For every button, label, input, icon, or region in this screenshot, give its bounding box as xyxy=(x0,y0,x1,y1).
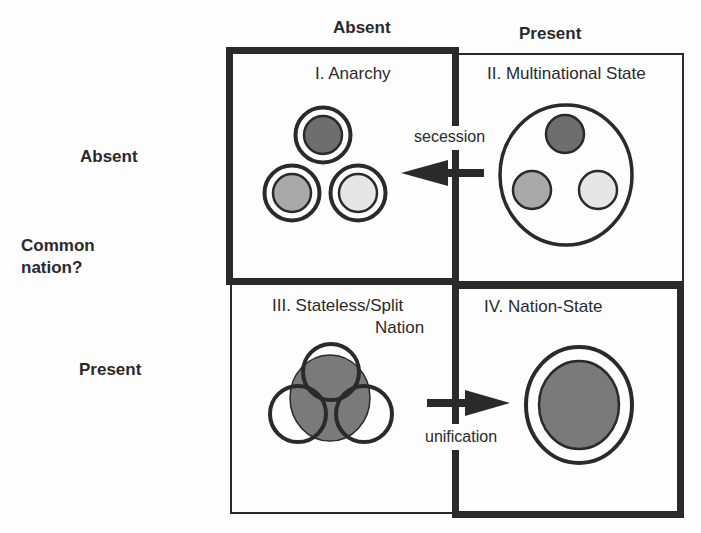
multinational-state-icon xyxy=(500,105,632,245)
quadrant-iii-title-line2: Nation xyxy=(375,318,424,338)
row-axis-title-line2: nation? xyxy=(21,258,82,278)
nation-state-icon xyxy=(526,347,632,463)
quadrant-i-title: I. Anarchy xyxy=(315,64,391,84)
secession-arrow-icon xyxy=(401,160,484,186)
row-header-present: Present xyxy=(79,360,141,380)
quadrant-iii-title-line1: III. Stateless/Split xyxy=(272,296,403,316)
row-header-absent: Absent xyxy=(80,147,138,167)
row-axis-title-line1: Common xyxy=(21,236,95,256)
secession-label: secession xyxy=(414,128,485,146)
anarchy-icon xyxy=(265,108,386,221)
column-header-absent: Absent xyxy=(333,18,391,38)
quadrant-iv-title: IV. Nation-State xyxy=(484,297,602,317)
quadrant-i-box xyxy=(230,51,456,282)
quadrant-ii-title: II. Multinational State xyxy=(487,64,646,84)
unification-label: unification xyxy=(425,428,497,446)
split-nation-icon xyxy=(270,344,392,442)
unification-arrow-icon xyxy=(427,390,510,416)
column-header-present: Present xyxy=(519,24,581,44)
